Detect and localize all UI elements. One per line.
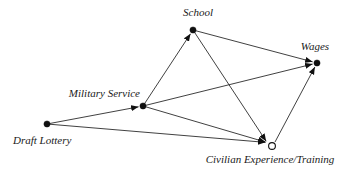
- edge-civilian_experience-to-wages: [275, 67, 315, 142]
- node-label-military-service: Military Service: [69, 87, 140, 99]
- node-label-draft-lottery: Draft Lottery: [13, 134, 71, 146]
- edge-military_service-to-wages: [143, 64, 313, 106]
- node-dot-civilian_experience: [269, 143, 276, 150]
- node-label-civilian-experience: Civilian Experience/Training: [206, 153, 335, 165]
- edge-draft_lottery-to-civilian_experience: [47, 124, 266, 142]
- node-label-school: School: [183, 6, 213, 18]
- node-label-wages: Wages: [301, 40, 329, 52]
- node-dot-draft_lottery: [44, 121, 50, 127]
- edge-draft_lottery-to-military_service: [47, 107, 139, 124]
- edge-military_service-to-school: [143, 34, 191, 106]
- edge-military_service-to-civilian_experience: [143, 106, 266, 142]
- node-dot-military_service: [140, 103, 146, 109]
- path-diagram: School Wages Military Service Draft Lott…: [0, 0, 338, 171]
- node-dot-school: [190, 27, 196, 33]
- node-dot-wages: [314, 60, 320, 66]
